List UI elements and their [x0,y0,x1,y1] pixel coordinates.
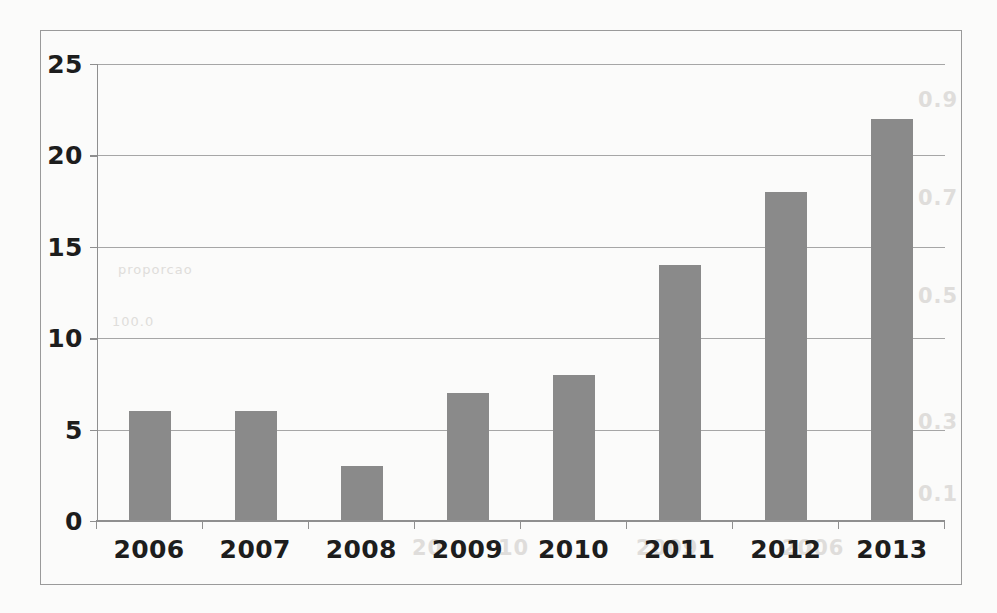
x-axis-label-2011: 2011 [627,535,733,564]
x-tick-0 [96,520,97,529]
x-axis-label-2012: 2012 [733,535,839,564]
x-tick-5 [626,520,627,529]
bar-series [97,64,945,521]
x-tick-4 [520,520,521,529]
y-axis-label-15: 15 [47,232,83,261]
bar-2007[interactable] [235,411,277,521]
bar-2012[interactable] [765,192,807,521]
bar-2011[interactable] [659,265,701,521]
y-axis-label-20: 20 [47,141,83,170]
bar-slot-2012 [733,64,839,521]
x-axis-label-2013: 2013 [839,535,945,564]
bar-slot-2009 [415,64,521,521]
bar-slot-2006 [97,64,203,521]
y-axis-label-25: 25 [47,50,83,79]
bar-slot-2010 [521,64,627,521]
x-axis-label-2008: 2008 [308,535,414,564]
x-axis-label-2009: 2009 [414,535,520,564]
bar-2006[interactable] [129,411,171,521]
x-axis-label-2007: 2007 [202,535,308,564]
x-tick-7 [838,520,839,529]
bar-2010[interactable] [553,375,595,521]
x-tick-6 [732,520,733,529]
bar-slot-2008 [309,64,415,521]
x-tick-1 [202,520,203,529]
y-axis-label-0: 0 [65,507,83,536]
y-axis-label-10: 10 [47,324,83,353]
x-axis-label-2010: 2010 [521,535,627,564]
bar-2013[interactable] [871,119,913,521]
x-axis-labels: 2006 2007 2008 2009 2010 2011 2012 2013 [96,535,945,564]
bar-2008[interactable] [341,466,383,521]
y-axis-label-5: 5 [65,415,83,444]
x-axis-label-2006: 2006 [96,535,202,564]
bar-slot-2013 [839,64,945,521]
bar-slot-2011 [627,64,733,521]
plot-area: 25 20 15 10 5 0 [97,64,945,521]
x-tick-8 [944,520,945,529]
bar-slot-2007 [203,64,309,521]
x-tick-2 [308,520,309,529]
x-tick-3 [414,520,415,529]
bar-2009[interactable] [447,393,489,521]
chart-frame: 25 20 15 10 5 0 [40,30,962,585]
